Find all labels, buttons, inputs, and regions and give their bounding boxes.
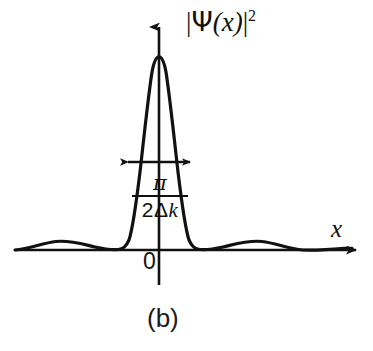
figure-caption: (b)	[147, 305, 179, 331]
y-axis-label-paren-open: (	[213, 7, 222, 37]
annotation-denominator-prefix: 2Δ	[142, 198, 169, 221]
wave-packet-figure: |Ψ(x)|2 x 0 π 2Δk (b)	[0, 0, 373, 351]
y-axis-label-exponent: 2	[248, 7, 256, 24]
x-axis-label: x	[331, 216, 342, 241]
y-axis-label-paren-close: )	[234, 7, 243, 37]
peak-width-annotation: π 2Δk	[129, 172, 191, 221]
y-axis-label-psi: Ψ	[191, 6, 212, 37]
y-axis-label: |Ψ(x)|2	[186, 8, 256, 36]
y-axis-label-variable: x	[222, 7, 234, 37]
annotation-denominator-variable: k	[168, 198, 178, 222]
origin-label: 0	[143, 250, 156, 273]
annotation-denominator: 2Δk	[129, 199, 191, 221]
probability-density-curve	[15, 57, 352, 251]
fraction-bar	[132, 195, 188, 197]
annotation-numerator: π	[129, 172, 191, 194]
